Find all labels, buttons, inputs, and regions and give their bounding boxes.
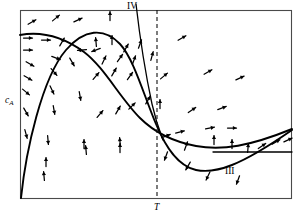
arrow-head-icon xyxy=(230,140,234,144)
arrow-head-icon xyxy=(29,36,33,40)
field-arrow xyxy=(44,158,48,167)
field-arrow xyxy=(42,38,51,42)
field-arrow xyxy=(127,72,132,79)
figure-canvas: cA T IV III xyxy=(0,0,300,214)
arrow-head-icon xyxy=(158,100,162,104)
y-axis-label-sub: A xyxy=(8,99,14,107)
field-arrow xyxy=(218,106,226,110)
field-arrow xyxy=(108,12,112,21)
field-arrow xyxy=(116,106,121,114)
arrow-head-icon xyxy=(24,134,28,138)
arrow-head-icon xyxy=(118,144,122,148)
curve-branch-iv-line xyxy=(136,4,163,140)
field-arrow xyxy=(112,68,117,76)
arrow-head-icon xyxy=(180,130,184,134)
field-arrow xyxy=(212,136,216,145)
field-arrow xyxy=(52,106,56,115)
field-arrow xyxy=(94,38,98,47)
field-arrow xyxy=(164,152,168,160)
branch-label-iii: III xyxy=(225,166,235,176)
arrow-head-icon xyxy=(118,138,122,142)
field-arrow xyxy=(53,15,60,21)
field-arrow xyxy=(74,18,82,22)
field-arrow xyxy=(118,144,122,153)
field-arrow xyxy=(46,136,50,145)
field-arrow xyxy=(23,89,30,95)
field-arrow xyxy=(70,58,75,66)
field-arrow xyxy=(188,107,195,112)
field-arrow xyxy=(158,100,162,109)
field-arrow xyxy=(161,73,168,79)
field-arrow xyxy=(24,76,32,81)
field-arrow xyxy=(24,108,29,116)
field-arrow xyxy=(102,56,106,64)
arrow-head-icon xyxy=(44,158,48,162)
arrow-head-icon xyxy=(46,141,50,145)
field-arrow xyxy=(24,130,28,139)
arrow-head-icon xyxy=(42,172,46,176)
field-arrow xyxy=(206,126,215,130)
field-arrow xyxy=(26,62,34,67)
field-arrow xyxy=(42,172,46,181)
field-arrow xyxy=(92,48,100,52)
field-arrow xyxy=(204,70,212,75)
curve-series-group xyxy=(20,4,292,198)
field-arrow xyxy=(97,111,103,118)
field-arrow xyxy=(178,36,186,41)
arrow-head-icon xyxy=(108,12,112,16)
arrow-head-icon xyxy=(82,140,86,144)
arrow-head-icon xyxy=(233,126,237,130)
arrow-head-icon xyxy=(29,48,33,52)
branch-label-iv: IV xyxy=(127,1,137,11)
field-arrow xyxy=(176,130,185,134)
field-arrow xyxy=(78,92,82,101)
phase-plane-figure: cA T IV III xyxy=(0,0,300,214)
y-axis-label: cA xyxy=(5,95,14,107)
field-arrow xyxy=(206,172,210,180)
field-arrow xyxy=(24,48,33,52)
field-arrow xyxy=(228,126,237,130)
field-arrow xyxy=(50,86,54,94)
field-arrow xyxy=(236,176,240,184)
curve-upper-sigmoid-curve xyxy=(20,34,292,148)
field-arrow xyxy=(284,138,292,142)
field-arrow xyxy=(28,20,36,25)
arrow-head-icon xyxy=(94,38,98,42)
arrow-head-icon xyxy=(212,136,216,140)
field-arrow xyxy=(132,56,136,64)
field-arrow xyxy=(150,52,154,61)
arrow-head-icon xyxy=(47,38,51,42)
field-arrow xyxy=(93,73,99,80)
field-arrow xyxy=(24,36,33,40)
field-arrow xyxy=(236,76,244,80)
field-arrow xyxy=(117,54,122,61)
arrow-head-icon xyxy=(150,52,154,56)
x-tick-label-T: T xyxy=(154,202,160,212)
